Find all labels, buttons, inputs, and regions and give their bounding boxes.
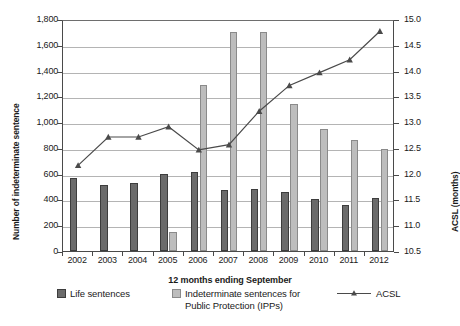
- chart-container: Number of indeterminate sentence ACSL (m…: [0, 0, 460, 326]
- legend-item-acsl: ACSL: [337, 288, 400, 300]
- y-axis-tick-label-right: 14.0: [404, 66, 438, 76]
- x-axis-tick-mark: [243, 252, 244, 256]
- y-axis-tick-label-right: 12.0: [404, 169, 438, 179]
- acsl-data-point: [377, 28, 383, 34]
- legend-label-life: Life sentences: [70, 288, 130, 300]
- legend-swatch-ipp-icon: [172, 289, 181, 298]
- y-axis-tick-label-left: 200: [18, 220, 58, 230]
- y-axis-tick-label-left: 0: [18, 246, 58, 256]
- x-axis-tick-mark: [364, 252, 365, 256]
- legend-label-ipp-line1: Indeterminate sentences for: [185, 288, 300, 299]
- legend-swatch-life-icon: [57, 289, 66, 298]
- y-axis-tick-label-right: 14.5: [404, 40, 438, 50]
- y-axis-tick-label-left: 1,400: [18, 66, 58, 76]
- y-axis-tick-label-right: 13.0: [404, 117, 438, 127]
- y-axis-tick-label-right: 10.5: [404, 246, 438, 256]
- plot-area: [62, 20, 394, 252]
- x-axis-title: 12 months ending September: [0, 275, 460, 285]
- x-axis-tick-mark: [334, 252, 335, 256]
- acsl-data-point: [316, 69, 322, 75]
- y-axis-tick-label-left: 1,200: [18, 91, 58, 101]
- legend-label-ipp-line2: Public Protection (IPPs): [185, 300, 283, 311]
- y-axis-tick-label-left: 400: [18, 194, 58, 204]
- legend-label-ipp: Indeterminate sentences for Public Prote…: [185, 288, 300, 311]
- y-axis-tick-label-left: 600: [18, 169, 58, 179]
- legend-item-life: Life sentences: [57, 288, 130, 300]
- x-axis-tick-mark: [153, 252, 154, 256]
- x-axis-tick-mark: [213, 252, 214, 256]
- acsl-data-point: [165, 124, 171, 130]
- acsl-line-series: [63, 21, 395, 253]
- x-axis-tick-mark: [304, 252, 305, 256]
- y-axis-tick-label-right: 13.5: [404, 91, 438, 101]
- y-axis-tick-label-left: 1,800: [18, 14, 58, 24]
- x-axis-tick-label: 2012: [359, 255, 399, 265]
- chart-legend: Life sentences Indeterminate sentences f…: [0, 288, 460, 322]
- x-axis-tick-mark: [273, 252, 274, 256]
- x-axis-tick-mark: [62, 252, 63, 256]
- acsl-markers: [75, 28, 383, 168]
- y-axis-tick-label-left: 1,600: [18, 40, 58, 50]
- y-axis-tick-label-left: 800: [18, 143, 58, 153]
- x-axis-tick-mark: [122, 252, 123, 256]
- y-axis-tick-label-right: 11.0: [404, 220, 438, 230]
- legend-line-marker-acsl-icon: [337, 288, 371, 299]
- y-axis-title-right: ACSL (months): [450, 172, 460, 232]
- y-axis-tick-label-right: 12.5: [404, 143, 438, 153]
- acsl-data-point: [286, 82, 292, 88]
- y-axis-tick-label-right: 11.5: [404, 194, 438, 204]
- x-axis-tick-mark: [183, 252, 184, 256]
- y-axis-tick-label-right: 15.0: [404, 14, 438, 24]
- legend-item-ipp: Indeterminate sentences for Public Prote…: [172, 288, 300, 311]
- y-axis-tick-label-left: 1,000: [18, 117, 58, 127]
- x-axis-tick-mark: [92, 252, 93, 256]
- legend-label-acsl: ACSL: [376, 288, 400, 300]
